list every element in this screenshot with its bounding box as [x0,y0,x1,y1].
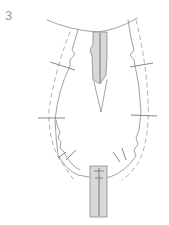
pattern-diagram [0,0,169,225]
top-edge [47,18,137,32]
bottom-zipper [90,166,107,217]
left-cut-edge [56,120,80,170]
top-placket [90,32,107,84]
left-seam-allowance [49,32,74,180]
dart [94,80,107,112]
right-seam-allowance [122,20,148,180]
